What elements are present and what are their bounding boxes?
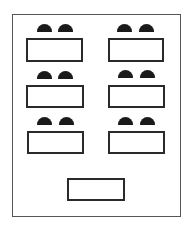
chair-icon xyxy=(118,70,133,78)
teacher-desk xyxy=(67,178,125,201)
student-desk-row2-left xyxy=(26,85,84,108)
chair-icon xyxy=(139,24,154,32)
student-desk-row3-left xyxy=(27,131,84,154)
chair-icon xyxy=(37,24,52,32)
chair-icon xyxy=(59,117,74,125)
chair-icon xyxy=(140,117,155,125)
student-desk-row1-left xyxy=(26,38,83,62)
student-desk-row2-right xyxy=(108,85,165,108)
student-desk-row3-right xyxy=(108,131,165,154)
classroom-diagram: classroom-seating-layout xyxy=(0,0,190,226)
chair-icon xyxy=(117,24,132,32)
chair-icon xyxy=(58,24,73,32)
chair-icon xyxy=(118,117,133,125)
chair-icon xyxy=(58,71,73,79)
student-desk-row1-right xyxy=(108,38,164,62)
chair-icon xyxy=(37,117,52,125)
chair-icon xyxy=(140,70,155,78)
chair-icon xyxy=(37,71,52,79)
diagram-type-label: classroom-seating-layout xyxy=(0,0,1,1)
